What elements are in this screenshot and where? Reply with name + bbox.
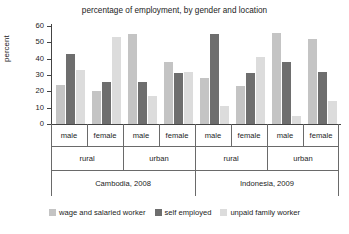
legend-label: unpaid family worker — [230, 208, 300, 217]
bar — [184, 72, 193, 124]
gender-label: female — [159, 124, 195, 146]
bar-group — [88, 26, 124, 124]
label-separator — [51, 124, 52, 196]
bar — [138, 82, 147, 124]
bar — [112, 37, 121, 124]
location-label: urban — [123, 146, 195, 170]
gender-label: male — [51, 124, 87, 146]
bar — [148, 96, 157, 124]
y-axis-tick-mark — [47, 42, 51, 43]
bar — [200, 78, 209, 124]
legend-swatch — [49, 209, 56, 216]
gender-label: male — [123, 124, 159, 146]
label-separator — [159, 124, 160, 146]
bar — [272, 33, 281, 124]
bar — [56, 85, 65, 124]
y-axis-tick-mark — [47, 91, 51, 92]
bar — [92, 91, 101, 124]
legend-swatch — [220, 209, 227, 216]
location-label-row: ruralurbanruralurban — [51, 146, 341, 170]
country-label: Cambodia, 2008 — [51, 170, 195, 196]
gender-label-row: malefemalemalefemalemalefemalemalefemale — [51, 124, 341, 146]
y-axis-label: percent — [2, 35, 11, 62]
location-label: urban — [267, 146, 339, 170]
bar — [282, 62, 291, 124]
y-axis-tick-mark — [47, 75, 51, 76]
gender-label: male — [267, 124, 303, 146]
legend-item: unpaid family worker — [220, 208, 300, 217]
gender-label: female — [303, 124, 339, 146]
chart-legend: wage and salaried workerself employedunp… — [0, 208, 349, 217]
label-separator — [87, 124, 88, 146]
y-axis-tick-label: 50 — [36, 37, 44, 46]
label-separator — [338, 124, 339, 196]
bar — [246, 73, 255, 124]
legend-swatch — [155, 209, 162, 216]
chart-title: percentage of employment, by gender and … — [0, 6, 349, 15]
bar — [174, 73, 183, 124]
bar — [256, 57, 265, 124]
bar — [102, 82, 111, 124]
y-axis-tick-label: 10 — [36, 103, 44, 112]
bar-group — [304, 26, 340, 124]
gender-label: female — [231, 124, 267, 146]
bar-group — [232, 26, 268, 124]
bar — [220, 106, 229, 124]
bar — [308, 39, 317, 124]
bar-group — [268, 26, 304, 124]
label-separator — [267, 124, 268, 170]
legend-label: self employed — [165, 208, 212, 217]
label-separator — [195, 124, 196, 196]
country-label-row: Cambodia, 2008Indonesia, 2009 — [51, 170, 341, 196]
location-label: rural — [51, 146, 123, 170]
y-axis-tick-mark — [47, 59, 51, 60]
bar-group — [196, 26, 232, 124]
bar — [66, 54, 75, 124]
y-axis-tick-label: 60 — [36, 21, 44, 30]
bar-group — [124, 26, 160, 124]
bar-group — [52, 26, 88, 124]
gender-label: female — [87, 124, 123, 146]
legend-item: self employed — [155, 208, 212, 217]
y-axis-tick-mark — [47, 108, 51, 109]
label-separator — [303, 124, 304, 146]
y-axis-tick-label: 0 — [40, 119, 44, 128]
chart-container: percentage of employment, by gender and … — [0, 0, 349, 234]
label-separator — [51, 146, 339, 147]
bar-group — [160, 26, 196, 124]
bar — [164, 62, 173, 124]
label-separator — [123, 124, 124, 170]
bar — [76, 70, 85, 124]
gender-label: male — [195, 124, 231, 146]
bar — [328, 101, 337, 124]
country-label: Indonesia, 2009 — [195, 170, 339, 196]
bar — [292, 116, 301, 124]
y-axis-tick-mark — [47, 26, 51, 27]
y-axis-tick-label: 20 — [36, 86, 44, 95]
bar — [210, 34, 219, 124]
label-separator — [231, 124, 232, 146]
y-axis-tick-label: 40 — [36, 54, 44, 63]
location-label: rural — [195, 146, 267, 170]
legend-label: wage and salaried worker — [59, 208, 146, 217]
y-axis-tick-label: 30 — [36, 70, 44, 79]
x-axis-label-table: malefemalemalefemalemalefemalemalefemale… — [51, 124, 341, 196]
label-separator — [51, 170, 339, 171]
legend-item: wage and salaried worker — [49, 208, 146, 217]
bar — [128, 34, 137, 124]
plot-area — [52, 26, 340, 124]
bar — [318, 72, 327, 124]
bar — [236, 86, 245, 124]
